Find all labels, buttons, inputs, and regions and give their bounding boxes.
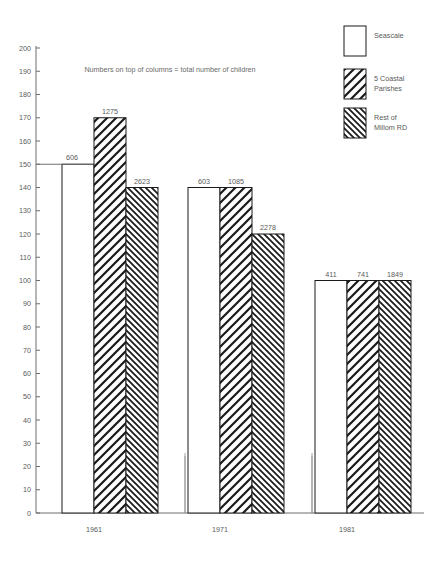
legend-swatch-2 [344, 108, 366, 138]
y-axis-tick-label: 50 [23, 392, 31, 401]
y-axis-tick-label: 10 [23, 485, 31, 494]
y-axis-tick-label: 120 [19, 230, 31, 239]
y-axis-tick-label: 150 [19, 160, 31, 169]
legend-label-0: Seascale [374, 31, 404, 40]
bar-value-label: 2278 [260, 223, 276, 232]
y-axis-tick-label: 60 [23, 369, 31, 378]
y-axis-tick-label: 110 [20, 253, 31, 262]
y-axis-tick-label: 100 [19, 276, 31, 285]
legend-label-2: Rest of [374, 113, 397, 122]
y-axis-tick-label: 20 [23, 462, 31, 471]
y-axis-tick-label: 130 [19, 206, 31, 215]
bar-1981-5-coastal-parishes [347, 281, 379, 514]
chart-subtitle: Numbers on top of columns = total number… [84, 65, 255, 74]
x-axis-category-label: 1981 [339, 525, 355, 534]
bar-value-label: 741 [357, 270, 369, 279]
legend-swatch-0 [344, 26, 366, 56]
y-axis-tick-label: 0 [27, 509, 31, 518]
bar-value-label: 603 [198, 177, 210, 186]
y-axis-tick-label: 70 [23, 346, 31, 355]
legend-swatch-1 [344, 69, 366, 99]
y-axis-tick-label: 40 [23, 416, 31, 425]
y-axis-tick-label: 80 [23, 323, 31, 332]
bar-value-label: 2623 [134, 177, 150, 186]
bar-1971-5-coastal-parishes [220, 188, 252, 514]
bar-value-label: 1085 [228, 177, 244, 186]
legend-label-2-line2: Millom RD [374, 123, 407, 132]
y-axis-tick-label: 170 [19, 113, 31, 122]
bar-value-label: 1849 [387, 270, 403, 279]
bar-chart: 0102030405060708090100110120130140150160… [0, 0, 440, 571]
bar-value-label: 606 [66, 153, 78, 162]
y-axis-tick-label: 190 [19, 67, 31, 76]
y-axis-tick-label: 180 [19, 90, 31, 99]
bar-1961-5-coastal-parishes [94, 118, 126, 513]
legend-label-1-line2: Parishes [374, 84, 402, 93]
x-axis-category-label: 1961 [86, 525, 102, 534]
chart-canvas: 0102030405060708090100110120130140150160… [0, 0, 440, 571]
y-axis-tick-label: 30 [23, 439, 31, 448]
y-axis-tick-label: 160 [19, 137, 31, 146]
y-axis-tick-label: 140 [19, 183, 31, 192]
bar-value-label: 411 [325, 270, 336, 279]
legend-label-1: 5 Coastal [374, 74, 405, 83]
bar-1961-seascale [62, 164, 94, 513]
y-axis-tick-label: 200 [19, 44, 31, 53]
bar-1981-rest-of-millom-rd [379, 281, 411, 514]
bar-1981-seascale [315, 281, 347, 514]
bar-value-label: 1275 [102, 107, 118, 116]
x-axis-category-label: 1971 [212, 525, 228, 534]
y-axis-tick-label: 90 [23, 299, 31, 308]
plot-area: 0102030405060708090100110120130140150160… [19, 26, 424, 534]
bar-1971-rest-of-millom-rd [252, 234, 284, 513]
bar-1961-rest-of-millom-rd [126, 188, 158, 514]
bar-1971-seascale [188, 188, 220, 514]
